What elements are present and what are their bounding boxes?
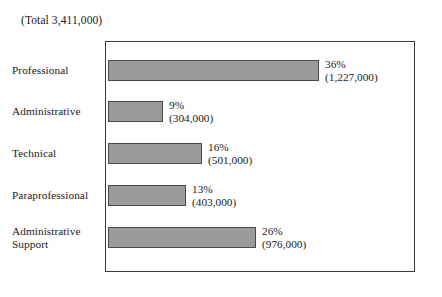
bar-paraprofessional[interactable] [108, 185, 186, 206]
value-label-professional: 36% (1,227,000) [325, 57, 378, 84]
category-label-administrative-support: Administrative Support [12, 224, 100, 251]
chart-row: Paraprofessional 13% (403,000) [0, 185, 442, 206]
chart-row: Professional 36% (1,227,000) [0, 60, 442, 81]
value-count-administrative: (304,000) [169, 112, 213, 126]
value-count-administrative-support: (976,000) [262, 238, 306, 252]
value-count-professional: (1,227,000) [325, 71, 378, 85]
bar-technical[interactable] [108, 143, 202, 164]
category-label-technical: Technical [12, 147, 100, 161]
bar-administrative[interactable] [108, 101, 163, 122]
bar-administrative-support[interactable] [108, 227, 256, 248]
category-label-professional: Professional [12, 64, 100, 78]
chart-row: Administrative 9% (304,000) [0, 101, 442, 122]
value-percent-professional: 36% [325, 57, 378, 71]
bar-professional[interactable] [108, 60, 319, 81]
chart-bar-rows: Professional 36% (1,227,000) Administrat… [0, 0, 442, 297]
category-label-administrative: Administrative [12, 105, 100, 119]
value-count-technical: (501,000) [208, 154, 252, 168]
value-label-technical: 16% (501,000) [208, 140, 252, 167]
chart-row: Administrative Support 26% (976,000) [0, 227, 442, 248]
category-label-paraprofessional: Paraprofessional [12, 189, 100, 203]
value-count-paraprofessional: (403,000) [192, 196, 236, 210]
value-percent-technical: 16% [208, 140, 252, 154]
chart-row: Technical 16% (501,000) [0, 143, 442, 164]
value-label-paraprofessional: 13% (403,000) [192, 182, 236, 209]
value-percent-paraprofessional: 13% [192, 182, 236, 196]
value-percent-administrative-support: 26% [262, 224, 306, 238]
value-percent-administrative: 9% [169, 98, 213, 112]
value-label-administrative: 9% (304,000) [169, 98, 213, 125]
value-label-administrative-support: 26% (976,000) [262, 224, 306, 251]
